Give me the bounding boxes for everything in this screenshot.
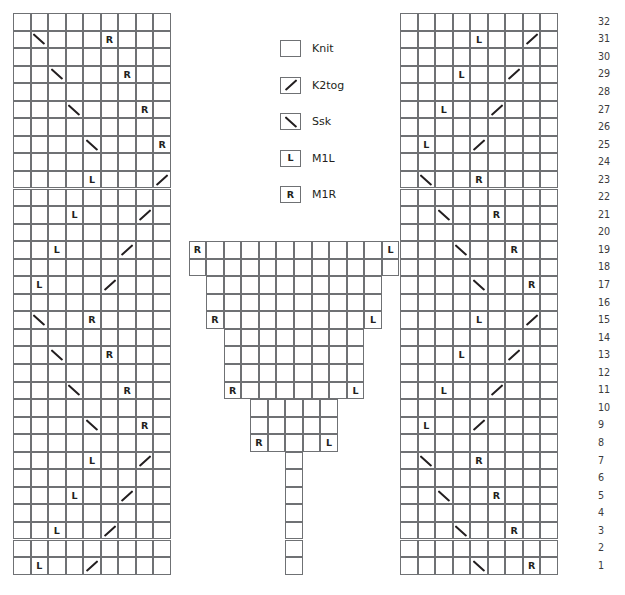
chart-cell [285,504,303,522]
chart-cell [488,259,506,277]
chart-cell [136,346,154,364]
m1r-symbol: R [137,102,153,118]
chart-cell [276,364,294,382]
chart-cell [418,276,436,294]
chart-cell [101,276,119,294]
chart-cell: R [250,434,268,452]
legend-swatch-k2tog [280,77,301,94]
chart-cell [48,224,66,242]
k2tog-icon [524,32,540,48]
chart-cell: R [470,171,488,189]
chart-cell [453,276,471,294]
chart-cell [48,83,66,101]
chart-cell [31,118,49,136]
chart-cell: L [83,171,101,189]
chart-cell [488,434,506,452]
chart-cell [453,469,471,487]
chart-cell [540,399,558,417]
row-number: 9 [598,420,620,430]
chart-cell [83,364,101,382]
row-number: 6 [598,473,620,483]
chart-cell [523,118,541,136]
chart-cell [470,522,488,540]
chart-cell [83,434,101,452]
chart-cell [206,259,224,277]
chart-cell [259,276,277,294]
chart-cell [470,66,488,84]
chart-cell [400,118,418,136]
chart-cell [13,276,31,294]
chart-cell [303,399,321,417]
row-number: 24 [598,157,620,167]
chart-cell [13,329,31,347]
chart-cell [136,206,154,224]
chart-cell [294,329,312,347]
chart-cell [118,31,136,49]
chart-cell [118,417,136,435]
chart-cell [488,48,506,66]
chart-cell: L [66,487,84,505]
chart-cell [470,83,488,101]
chart-cell [400,276,418,294]
chart-cell [13,487,31,505]
chart-cell [453,31,471,49]
chart-cell [13,346,31,364]
chart-cell [453,364,471,382]
m1r-symbol: R [524,558,540,574]
chart-cell [259,241,277,259]
m1l-symbol: L [383,242,399,258]
chart-cell [400,31,418,49]
chart-cell [241,382,259,400]
chart-cell [153,557,171,575]
chart-cell [118,241,136,259]
chart-cell [418,206,436,224]
chart-cell [66,241,84,259]
chart-cell [505,540,523,558]
chart-cell [540,153,558,171]
chart-cell [294,346,312,364]
chart-cell [285,522,303,540]
chart-cell: L [453,346,471,364]
chart-cell [83,399,101,417]
m1r-symbol: R [471,172,487,188]
chart-cell [206,276,224,294]
chart-cell [83,189,101,207]
chart-cell [418,311,436,329]
chart-cell: L [66,206,84,224]
k2tog-icon [137,453,153,469]
m1r-symbol: R [137,418,153,434]
chart-cell: R [189,241,207,259]
chart-cell [418,329,436,347]
chart-cell [101,189,119,207]
chart-cell: L [31,276,49,294]
row-number: 4 [598,508,620,518]
chart-cell: R [224,382,242,400]
chart-cell [400,241,418,259]
chart-cell [13,294,31,312]
row-number: 16 [598,298,620,308]
chart-cell [540,329,558,347]
chart-cell [418,83,436,101]
chart-cell [13,48,31,66]
chart-cell [136,487,154,505]
chart-cell [488,364,506,382]
chart-cell [136,83,154,101]
legend-item-ssk: Ssk [280,113,331,130]
chart-cell [470,101,488,119]
chart-cell [400,13,418,31]
chart-cell [418,13,436,31]
chart-cell [540,189,558,207]
chart-cell [435,469,453,487]
chart-cell [418,504,436,522]
chart-cell [31,399,49,417]
k2tog-icon [489,383,505,399]
chart-cell [31,294,49,312]
chart-cell [276,241,294,259]
chart-cell [435,276,453,294]
chart-cell [453,399,471,417]
row-number: 32 [598,17,620,27]
ssk-icon [454,242,470,258]
chart-cell [153,66,171,84]
chart-cell [31,469,49,487]
chart-cell [540,48,558,66]
